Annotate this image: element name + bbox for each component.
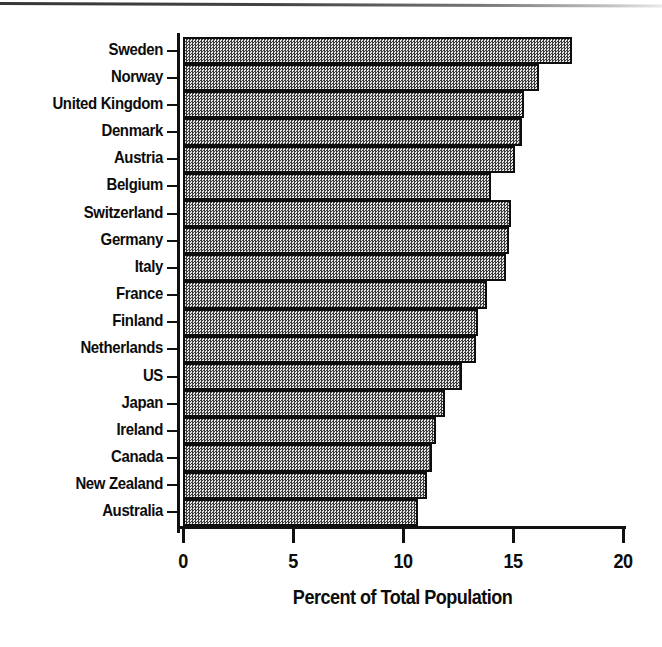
y-axis-tick: [167, 50, 178, 52]
bar-row: [183, 37, 623, 64]
x-axis-tick: [622, 529, 625, 543]
bar-row: [183, 118, 623, 145]
bar: [183, 281, 487, 308]
bar-row: [183, 336, 623, 363]
bar: [183, 417, 436, 444]
bar: [183, 363, 462, 390]
y-axis-category-label: Germany: [20, 231, 163, 249]
y-axis-tick: [167, 267, 178, 269]
bar: [183, 91, 524, 118]
bar: [183, 444, 432, 471]
y-axis-tick: [167, 104, 178, 106]
x-axis-tick: [182, 529, 185, 543]
x-axis-tick-label: 15: [487, 549, 539, 573]
y-axis-category-label: Ireland: [20, 421, 163, 439]
y-axis-tick: [167, 185, 178, 187]
y-axis-category-label: Finland: [20, 312, 163, 330]
bar-chart: SwedenNorwayUnited KingdomDenmarkAustria…: [0, 0, 662, 647]
bar-row: [183, 200, 623, 227]
x-axis-tick-label: 10: [377, 549, 429, 573]
bar-row: [183, 64, 623, 91]
y-axis-tick: [167, 348, 178, 350]
y-axis-tick: [167, 213, 178, 215]
y-axis-tick: [167, 240, 178, 242]
y-axis-category-label: Switzerland: [20, 204, 163, 222]
bar: [183, 200, 511, 227]
bar: [183, 309, 478, 336]
scan-edge-artifact: [0, 2, 662, 8]
bar: [183, 336, 476, 363]
y-axis-category-label: Austria: [20, 149, 163, 167]
y-axis-tick: [167, 511, 178, 513]
x-axis-tick: [402, 529, 405, 543]
x-axis-tick-label: 5: [267, 549, 319, 573]
x-axis-tick: [512, 529, 515, 543]
bar: [183, 472, 427, 499]
y-axis-category-label: Sweden: [20, 41, 163, 59]
bar-row: [183, 363, 623, 390]
bar-row: [183, 390, 623, 417]
x-axis-title: Percent of Total Population: [183, 585, 623, 609]
plot-area: [183, 37, 623, 526]
y-axis-tick: [167, 158, 178, 160]
x-axis-tick-label: 0: [157, 549, 209, 573]
y-axis-tick: [167, 77, 178, 79]
y-axis-category-label: New Zealand: [20, 475, 163, 493]
y-axis-tick: [167, 457, 178, 459]
bar-row: [183, 417, 623, 444]
bar: [183, 254, 506, 281]
y-axis-category-label: Netherlands: [20, 339, 163, 357]
y-axis-tick: [167, 403, 178, 405]
bar-row: [183, 91, 623, 118]
y-axis-tick: [167, 294, 178, 296]
x-axis-title-text: Percent of Total Population: [293, 585, 513, 609]
y-axis-tick: [167, 376, 178, 378]
bar: [183, 173, 491, 200]
y-axis-category-label: Denmark: [20, 122, 163, 140]
bar-row: [183, 227, 623, 254]
y-axis-category-label: Australia: [20, 502, 163, 520]
bar: [183, 499, 418, 526]
bar: [183, 118, 522, 145]
y-axis-tick: [167, 484, 178, 486]
x-axis-tick-label: 20: [597, 549, 649, 573]
y-axis-category-label: Canada: [20, 448, 163, 466]
x-axis-tick: [292, 529, 295, 543]
y-axis-category-label: Italy: [20, 258, 163, 276]
bar-row: [183, 309, 623, 336]
bar: [183, 227, 509, 254]
y-axis-tick: [167, 131, 178, 133]
bar-row: [183, 499, 623, 526]
y-axis-category-label: Norway: [20, 68, 163, 86]
bar-row: [183, 444, 623, 471]
bar-row: [183, 146, 623, 173]
y-axis-category-label: US: [20, 367, 163, 385]
bar-row: [183, 173, 623, 200]
bar: [183, 37, 572, 64]
y-axis-category-label: France: [20, 285, 163, 303]
y-axis-category-label: Japan: [20, 394, 163, 412]
bar: [183, 390, 445, 417]
y-axis-tick: [167, 321, 178, 323]
bar: [183, 146, 515, 173]
bar-row: [183, 254, 623, 281]
y-axis-tick: [167, 430, 178, 432]
y-axis-category-label: Belgium: [20, 176, 163, 194]
y-axis-category-label: United Kingdom: [20, 95, 163, 113]
bar-row: [183, 281, 623, 308]
bar-row: [183, 472, 623, 499]
bar: [183, 64, 539, 91]
